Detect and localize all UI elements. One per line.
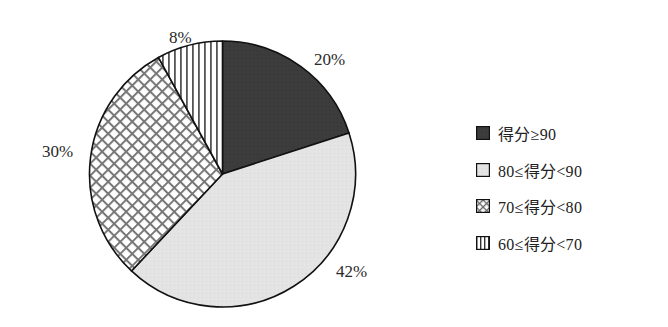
legend-item-score-90-plus: 得分≥90: [476, 115, 582, 152]
legend: 得分≥90 80≤得分<90 70≤得分<80 60≤得分<70: [476, 115, 582, 261]
legend-item-score-60-70: 60≤得分<70: [476, 225, 582, 262]
slice-label-20: 20%: [314, 50, 345, 69]
legend-label: 80≤得分<90: [498, 158, 582, 182]
legend-label: 得分≥90: [498, 121, 556, 145]
legend-label: 70≤得分<80: [498, 194, 582, 218]
legend-item-score-80-90: 80≤得分<90: [476, 152, 582, 189]
legend-swatch-crosshatch-icon: [476, 199, 490, 213]
legend-item-score-70-80: 70≤得分<80: [476, 188, 582, 225]
pie-slices: [89, 41, 355, 307]
legend-label: 60≤得分<70: [498, 231, 582, 255]
legend-swatch-dark-icon: [476, 126, 490, 140]
legend-swatch-light-icon: [476, 163, 490, 177]
slice-label-42: 42%: [336, 262, 367, 281]
slice-label-8: 8%: [169, 28, 192, 47]
slice-label-30: 30%: [42, 142, 73, 161]
legend-swatch-vertical-stripes-icon: [476, 236, 490, 250]
